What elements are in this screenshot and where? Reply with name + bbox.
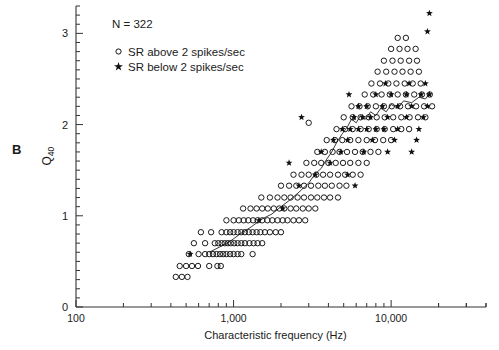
data-point-open-circle [259, 195, 264, 200]
data-point-star [415, 126, 422, 133]
data-point-open-circle [250, 251, 255, 256]
data-point-open-circle [348, 160, 353, 165]
data-point-open-circle [271, 206, 276, 211]
data-point-open-circle [414, 58, 419, 63]
data-point-star [426, 10, 433, 17]
data-point-open-circle [286, 183, 291, 188]
data-point-open-circle [224, 218, 229, 223]
data-point-open-circle [408, 69, 413, 74]
data-point-open-circle [291, 218, 296, 223]
data-point-open-circle [300, 206, 305, 211]
data-point-open-circle [349, 104, 354, 109]
data-point-open-circle [304, 160, 309, 165]
data-point-open-circle [356, 137, 361, 142]
data-point-open-circle [306, 120, 311, 125]
data-point-open-circle [327, 172, 332, 177]
data-point-open-circle [183, 263, 188, 268]
data-point-open-circle [324, 137, 329, 142]
scatter-plot-canvas [0, 0, 499, 350]
data-point-open-circle [391, 115, 396, 120]
data-point-open-circle [398, 58, 403, 63]
data-point-open-circle [356, 160, 361, 165]
data-point-open-circle [415, 115, 420, 120]
data-point-open-circle [334, 126, 339, 131]
data-point-open-circle [191, 241, 196, 246]
data-point-open-circle [299, 172, 304, 177]
data-point-open-circle [350, 172, 355, 177]
data-point-open-circle [413, 46, 418, 51]
data-point-open-circle [254, 206, 259, 211]
data-point-open-circle [413, 104, 418, 109]
data-point-open-circle [303, 218, 308, 223]
data-point-open-circle [375, 69, 380, 74]
x-tick-label: 10,000 [375, 312, 407, 324]
data-point-open-circle [316, 183, 321, 188]
data-point-open-circle [377, 81, 382, 86]
data-point-open-circle [296, 218, 301, 223]
data-point-open-circle [402, 81, 407, 86]
data-point-open-circle [189, 263, 194, 268]
x-axis-label: Characteristic frequency (Hz) [0, 329, 499, 341]
data-point-open-circle [400, 69, 405, 74]
data-point-open-circle [358, 172, 363, 177]
data-point-open-circle [195, 263, 200, 268]
data-point-open-circle [327, 195, 332, 200]
data-point-open-circle [352, 149, 357, 154]
data-point-open-circle [373, 104, 378, 109]
data-point-open-circle [384, 69, 389, 74]
data-point-open-circle [267, 195, 272, 200]
data-point-open-circle [364, 137, 369, 142]
data-point-open-circle [364, 160, 369, 165]
data-point-open-circle [376, 149, 381, 154]
data-point-open-circle [265, 206, 270, 211]
data-point-open-circle [379, 92, 384, 97]
data-point-open-circle [275, 195, 280, 200]
data-point-open-circle [231, 218, 236, 223]
data-point-star [346, 91, 353, 98]
data-point-open-circle [315, 195, 320, 200]
data-point-open-circle [202, 241, 207, 246]
data-point-open-circle [306, 206, 311, 211]
data-point-open-circle [406, 58, 411, 63]
data-point-open-circle [179, 274, 184, 279]
data-point-open-circle [344, 183, 349, 188]
data-point-open-circle [278, 183, 283, 188]
data-point-open-circle [412, 92, 417, 97]
data-point-open-circle [374, 115, 379, 120]
data-point-open-circle [391, 126, 396, 131]
data-point-open-circle [291, 172, 296, 177]
data-point-open-circle [388, 46, 393, 51]
data-point-open-circle [173, 274, 178, 279]
data-point-open-circle [381, 58, 386, 63]
data-point-open-circle [395, 92, 400, 97]
data-point-open-circle [429, 104, 434, 109]
data-point-star [384, 148, 391, 155]
data-point-open-circle [208, 230, 213, 235]
data-point-open-circle [403, 35, 408, 40]
data-point-open-circle [329, 183, 334, 188]
data-point-open-circle [198, 230, 203, 235]
data-point-open-circle [278, 230, 283, 235]
data-point-open-circle [248, 206, 253, 211]
data-point-star [408, 148, 415, 155]
data-point-open-circle [337, 183, 342, 188]
data-point-open-circle [308, 183, 313, 188]
x-tick-label: 1,000 [220, 312, 246, 324]
data-point-open-circle [218, 263, 223, 268]
data-point-open-circle [362, 92, 367, 97]
data-point-open-circle [312, 160, 317, 165]
x-tick-label: 100 [67, 312, 85, 324]
data-point-open-circle [288, 206, 293, 211]
data-point-open-circle [306, 172, 311, 177]
data-point-open-circle [322, 183, 327, 188]
data-point-open-circle [308, 195, 313, 200]
data-point-open-circle [196, 251, 201, 256]
data-point-open-circle [177, 263, 182, 268]
data-point-open-circle [240, 206, 245, 211]
data-point-open-circle [341, 115, 346, 120]
data-point-open-circle [295, 195, 300, 200]
data-point-open-circle [397, 46, 402, 51]
data-point-open-circle [418, 81, 423, 86]
data-point-open-circle [340, 137, 345, 142]
data-point-open-circle [392, 69, 397, 74]
